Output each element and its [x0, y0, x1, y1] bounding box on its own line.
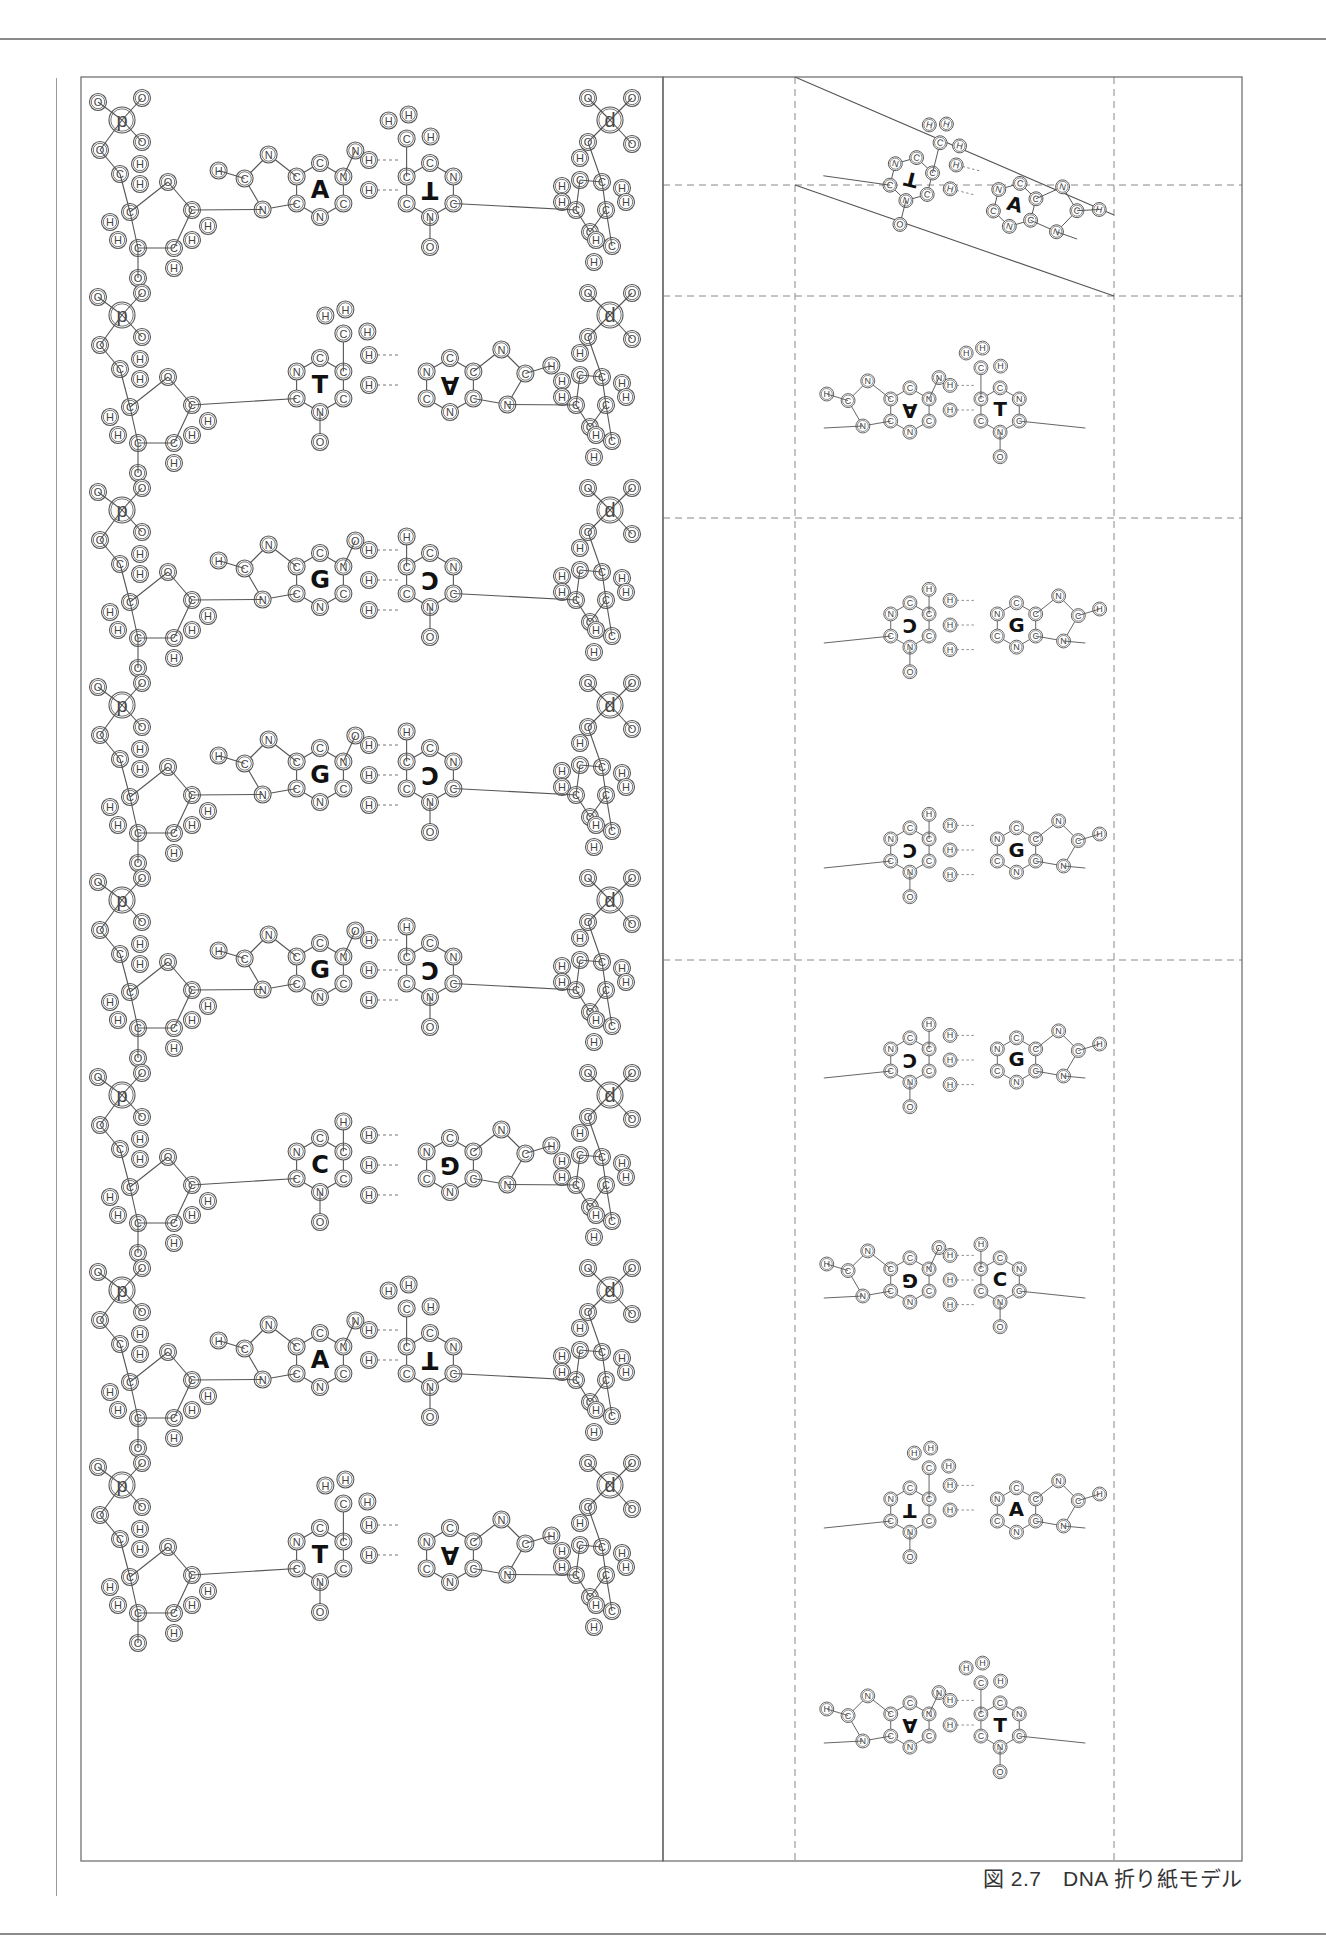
svg-text:H: H: [363, 326, 371, 338]
atom-h: H: [398, 723, 415, 740]
base-letter-c: C: [903, 1048, 917, 1071]
svg-text:H: H: [590, 1621, 598, 1633]
svg-text:H: H: [622, 586, 630, 598]
atom-h: H: [921, 116, 938, 133]
svg-text:H: H: [947, 845, 954, 855]
svg-text:H: H: [136, 373, 144, 385]
base-pair: CCCNCNOHCCCCNCNNCNHGHHHOOpOOCHHOCHCHCHCH…: [90, 1065, 641, 1262]
svg-text:C: C: [608, 1410, 616, 1422]
atom-c: C: [841, 1709, 855, 1723]
atom-h: H: [586, 449, 603, 466]
base-letter-c: C: [903, 614, 917, 637]
svg-text:H: H: [927, 1443, 934, 1453]
svg-text:O: O: [628, 138, 637, 150]
base-letter-c: C: [993, 1269, 1007, 1292]
atom-h: H: [588, 622, 605, 639]
svg-text:H: H: [204, 1390, 212, 1402]
svg-text:O: O: [628, 872, 637, 884]
atom-h: H: [102, 799, 119, 816]
atom-h: H: [110, 622, 127, 639]
svg-text:H: H: [106, 1386, 114, 1398]
svg-text:H: H: [947, 1080, 954, 1090]
svg-text:O: O: [138, 916, 147, 928]
atom-c: C: [335, 195, 352, 212]
svg-text:H: H: [204, 415, 212, 427]
atom-c: C: [312, 1325, 329, 1342]
atom-n: N: [493, 341, 510, 358]
atom-c: C: [974, 1676, 988, 1690]
svg-text:C: C: [426, 742, 434, 754]
atom-n: N: [442, 1574, 459, 1591]
svg-text:H: H: [365, 604, 373, 616]
svg-text:C: C: [316, 1327, 324, 1339]
svg-text:O: O: [138, 526, 147, 538]
atom-n: N: [1057, 1519, 1071, 1533]
svg-text:C: C: [339, 1173, 347, 1185]
svg-text:H: H: [365, 1189, 373, 1201]
svg-text:O: O: [628, 1457, 637, 1469]
atom-c: C: [990, 1064, 1004, 1078]
svg-text:C: C: [1013, 598, 1020, 608]
folded-base-pair-card: CNCNCCNCNHGOCNCNCCOHCHHH: [820, 1237, 1086, 1333]
atom-h: H: [943, 1503, 957, 1517]
atom-c: C: [1071, 1044, 1085, 1058]
atom-c: C: [398, 1365, 415, 1382]
atom-h: H: [943, 1718, 957, 1732]
atom-c: C: [442, 350, 459, 367]
svg-text:N: N: [936, 373, 943, 383]
svg-text:C: C: [608, 1020, 616, 1032]
svg-text:H: H: [558, 391, 566, 403]
atom-h: H: [337, 301, 354, 318]
base-letter-t: T: [903, 1499, 917, 1522]
atom-h: H: [994, 1674, 1008, 1688]
svg-text:H: H: [188, 234, 196, 246]
svg-text:O: O: [138, 677, 147, 689]
atom-n: N: [903, 1740, 917, 1754]
svg-text:H: H: [622, 1171, 630, 1183]
svg-text:H: H: [204, 1585, 212, 1597]
svg-text:N: N: [907, 1742, 914, 1752]
atom-h: H: [110, 1012, 127, 1029]
svg-text:O: O: [426, 241, 435, 253]
svg-text:H: H: [427, 131, 435, 143]
atom-o: O: [891, 216, 908, 233]
atom-h: H: [132, 546, 149, 563]
svg-text:C: C: [339, 328, 347, 340]
svg-text:H: H: [926, 1019, 932, 1029]
atom-h: H: [586, 644, 603, 661]
atom-h: H: [132, 1326, 149, 1343]
svg-text:N: N: [887, 609, 894, 619]
svg-text:H: H: [558, 1545, 566, 1557]
base-letter-a: A: [1005, 192, 1026, 218]
base-letter-a: A: [1009, 1499, 1025, 1522]
atom-h: H: [132, 1346, 149, 1363]
svg-text:H: H: [405, 109, 413, 121]
svg-text:C: C: [926, 1463, 933, 1473]
atom-h: H: [959, 346, 973, 360]
atom-o: O: [422, 824, 439, 841]
svg-text:H: H: [136, 1523, 144, 1535]
svg-text:C: C: [426, 937, 434, 949]
atom-h: H: [943, 593, 957, 607]
svg-text:N: N: [449, 756, 457, 768]
atom-c: C: [312, 155, 329, 172]
svg-text:O: O: [628, 677, 637, 689]
atom-c: C: [398, 780, 415, 797]
svg-text:H: H: [204, 805, 212, 817]
svg-text:C: C: [403, 588, 411, 600]
atom-h: H: [951, 137, 968, 154]
atom-h: H: [554, 373, 571, 390]
svg-text:C: C: [446, 1132, 454, 1144]
svg-text:H: H: [188, 624, 196, 636]
svg-text:O: O: [138, 1067, 147, 1079]
atom-n: N: [1010, 1525, 1024, 1539]
atom-c: C: [1071, 1494, 1085, 1508]
svg-text:C: C: [608, 630, 616, 642]
atom-n: N: [1052, 1024, 1066, 1038]
svg-text:H: H: [592, 1404, 600, 1416]
svg-text:C: C: [1013, 1033, 1020, 1043]
atom-c: C: [422, 740, 439, 757]
atom-c: C: [884, 854, 898, 868]
svg-text:C: C: [926, 416, 933, 426]
atom-h: H: [184, 1012, 201, 1029]
